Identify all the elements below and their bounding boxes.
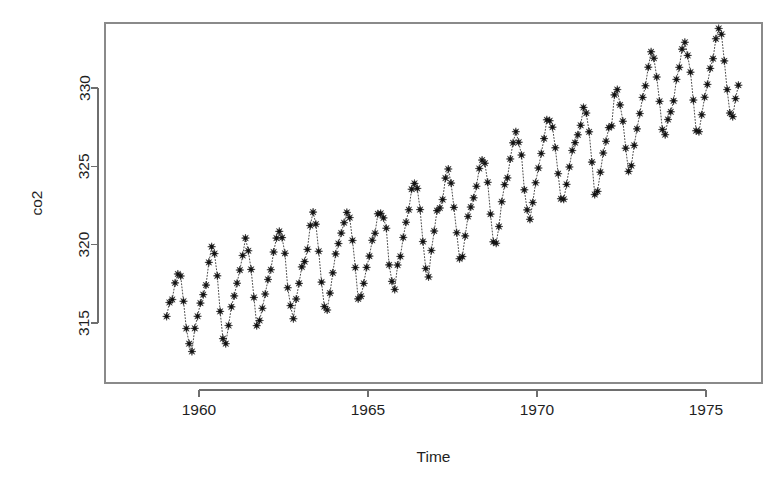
data-point [484, 178, 492, 186]
data-point [318, 278, 326, 286]
data-point [394, 261, 402, 269]
data-point [278, 234, 286, 242]
data-point [180, 297, 188, 305]
data-point [577, 121, 585, 129]
plot-frame-group [105, 23, 762, 383]
data-point [630, 141, 638, 149]
data-point [681, 38, 689, 46]
data-point [509, 139, 517, 147]
data-point [653, 73, 661, 81]
data-point [337, 229, 345, 237]
data-point [664, 115, 672, 123]
data-point [596, 168, 604, 176]
data-point [695, 128, 703, 136]
data-point [678, 45, 686, 53]
data-point [602, 137, 610, 145]
data-point [599, 149, 607, 157]
data-point [329, 269, 337, 277]
data-point [585, 128, 593, 136]
data-point [548, 123, 556, 131]
data-point [723, 86, 731, 94]
data-point [208, 243, 216, 251]
data-point [391, 285, 399, 293]
data-point [323, 306, 331, 314]
data-point [608, 122, 616, 130]
data-point [523, 206, 531, 214]
co2-time-series-plot: 1960196519701975 315320325330 Time co2 [0, 0, 782, 484]
data-point [487, 210, 495, 218]
data-point [199, 291, 207, 299]
data-point [717, 30, 725, 38]
data-point [560, 195, 568, 203]
x-axis: 1960196519701975 [182, 390, 723, 418]
data-point [515, 138, 523, 146]
data-point [467, 203, 475, 211]
data-point [261, 290, 269, 298]
data-point [498, 198, 506, 206]
data-point [636, 110, 644, 118]
data-point [613, 86, 621, 94]
data-point [256, 317, 264, 325]
data-point [360, 279, 368, 287]
data-point [222, 340, 230, 348]
y-tick-label: 325 [76, 153, 93, 179]
data-point [529, 199, 537, 207]
data-point [729, 113, 737, 121]
data-point [239, 251, 247, 259]
data-point [413, 184, 421, 192]
data-point [520, 186, 528, 194]
data-point [196, 299, 204, 307]
data-point [422, 264, 430, 272]
data-point [281, 249, 289, 257]
data-point [177, 272, 185, 280]
data-point [213, 272, 221, 280]
y-axis-title: co2 [28, 191, 45, 216]
chart-canvas: 1960196519701975 315320325330 Time co2 [0, 0, 782, 484]
data-point [247, 265, 255, 273]
data-point [396, 252, 404, 260]
data-point [734, 81, 742, 89]
co2-series [163, 24, 743, 355]
data-point [706, 64, 714, 72]
data-point [202, 281, 210, 289]
data-point [388, 277, 396, 285]
data-point [641, 82, 649, 90]
data-point [571, 139, 579, 147]
y-axis: 315320325330 [76, 75, 99, 336]
data-point [461, 232, 469, 240]
data-point [534, 164, 542, 172]
data-point [385, 261, 393, 269]
data-point [667, 108, 675, 116]
data-point [563, 180, 571, 188]
data-point [306, 222, 314, 230]
data-point [670, 97, 678, 105]
data-point [419, 238, 427, 246]
data-point [194, 312, 202, 320]
data-point [351, 264, 359, 272]
data-point [732, 95, 740, 103]
data-point [357, 292, 365, 300]
data-point [703, 80, 711, 88]
series-point-markers [163, 24, 743, 355]
data-point [241, 234, 249, 242]
data-point [656, 97, 664, 105]
data-point [270, 248, 278, 256]
data-point [503, 174, 511, 182]
data-point [287, 302, 295, 310]
data-point [450, 203, 458, 211]
data-point [701, 93, 709, 101]
data-point [295, 279, 303, 287]
data-point [233, 279, 241, 287]
data-point [444, 165, 452, 173]
data-point [382, 224, 390, 232]
data-point [439, 196, 447, 204]
data-point [363, 263, 371, 271]
data-point [650, 54, 658, 62]
data-point [619, 117, 627, 125]
data-point [163, 312, 171, 320]
data-point [551, 144, 559, 152]
data-point [622, 144, 630, 152]
data-point [430, 227, 438, 235]
data-point [453, 229, 461, 237]
y-tick-label: 320 [76, 231, 93, 257]
